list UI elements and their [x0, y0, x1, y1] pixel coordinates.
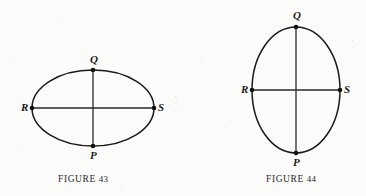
vertex-label-r: R — [241, 84, 248, 95]
figure-caption-44: Figure 44 — [266, 174, 316, 184]
vertex-dot-s — [152, 106, 157, 111]
vertex-dot-p — [294, 151, 299, 156]
vertex-label-r: R — [21, 102, 28, 113]
figure-44-diagram — [183, 0, 366, 196]
vertex-label-s: S — [158, 102, 164, 113]
figure-43-panel: Q P R S Figure 43 — [0, 0, 183, 196]
vertex-dot-s — [338, 88, 343, 93]
vertex-dot-r — [250, 88, 255, 93]
vertex-dot-q — [91, 68, 96, 73]
vertex-label-q: Q — [293, 10, 301, 21]
vertex-label-s: S — [344, 84, 350, 95]
figure-caption-number: 43 — [99, 174, 109, 184]
figure-caption-lead: Figure — [266, 174, 304, 184]
vertex-dot-q — [294, 25, 299, 30]
vertex-label-p: P — [293, 157, 300, 168]
figure-caption-43: Figure 43 — [58, 174, 108, 184]
vertex-label-q: Q — [90, 54, 98, 65]
vertex-dot-p — [91, 144, 96, 149]
figure-caption-lead: Figure — [58, 174, 96, 184]
vertex-label-p: P — [90, 150, 97, 161]
figure-43-diagram — [0, 0, 183, 196]
vertex-dot-r — [30, 106, 35, 111]
figure-44-panel: Q P R S Figure 44 — [183, 0, 366, 196]
figure-page: Q P R S Figure 43 Q P R S Figure 44 — [0, 0, 366, 196]
figure-caption-number: 44 — [307, 174, 317, 184]
